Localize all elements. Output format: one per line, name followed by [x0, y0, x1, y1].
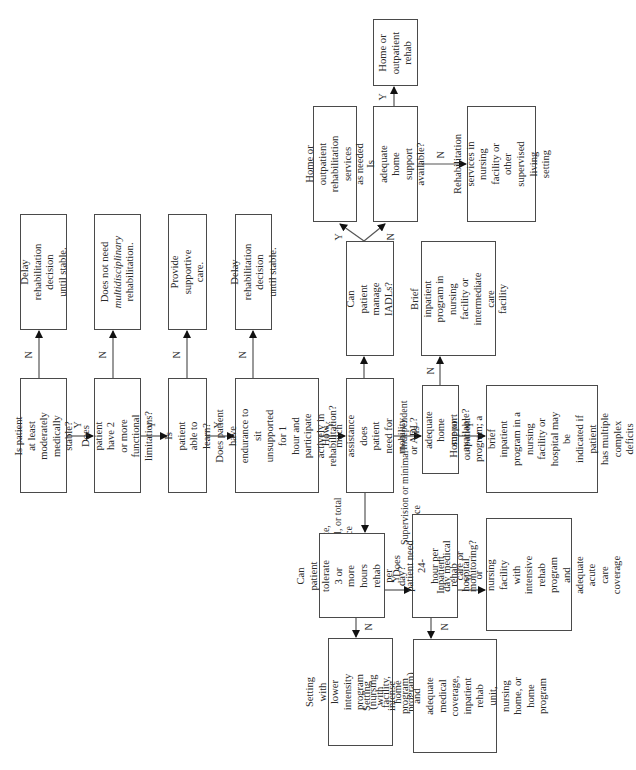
node-text: Home or outpatient rehab: [377, 31, 415, 73]
node-text: Is patient at least moderately medically…: [12, 412, 75, 460]
label-n: N: [98, 351, 108, 358]
label-n: N: [436, 151, 446, 158]
node-intense-program: Setting with intense program and adequat…: [413, 639, 497, 753]
node-delay-rehab-1: Delay rehabilitation decision until stab…: [20, 214, 67, 330]
node-medically-stable: Is patient at least moderately medically…: [20, 378, 67, 493]
text-emphasis: multidisciplinary: [111, 236, 122, 308]
node-not-multidisciplinary: Does not needmultidisciplinaryrehabilita…: [94, 214, 141, 330]
node-endurance: Does patient have endurance to sit unsup…: [235, 378, 319, 493]
label-y: Y: [378, 93, 388, 100]
node-manage-iadls: Can patient manage IADLs?: [346, 241, 394, 356]
node-supportive-care: Provide supportive care.: [168, 214, 207, 330]
label-n: N: [364, 623, 374, 630]
node-text: Delay rehabilitation decision until stab…: [18, 244, 68, 300]
node-text: Home or outpatient program; a brief inpa…: [448, 412, 636, 467]
node-text: Setting with intense program and adequat…: [361, 676, 550, 717]
node-brief-inpatient: Brief inpatient program in nursing facil…: [421, 241, 496, 356]
node-able-to-learn: Is patient able to learn?: [168, 378, 207, 493]
node-text: How much assistance does patient need fo…: [320, 414, 421, 456]
node-home-services-as-needed: Home or outpatient rehabilitation servic…: [313, 106, 357, 222]
node-home-outpatient-program: Home or outpatient program; a brief inpa…: [486, 385, 598, 493]
node-functional-limitations: Does patient have 2 or more functional l…: [94, 378, 141, 493]
label-n: N: [440, 623, 450, 630]
label-n: N: [386, 233, 396, 240]
node-tolerate-3-hours: Can patient tolerate 3 or more hours reh…: [319, 533, 385, 618]
node-inpatient-rehab-hospital: Inpatient rehab hospital or nursing faci…: [486, 518, 572, 631]
label-n: N: [24, 351, 34, 358]
node-text: Is patient able to learn?: [162, 421, 212, 450]
node-text: Can patient manage IADLs?: [345, 281, 395, 315]
node-text: Delay rehabilitation decision until stab…: [228, 244, 278, 300]
text-pre: Does not need: [99, 242, 110, 303]
node-text: Home or outpatient rehabilitation servic…: [304, 136, 367, 192]
node-rehab-nursing-facility: Rehabilitation services in nursing facil…: [467, 106, 536, 222]
node-text: Does not needmultidisciplinaryrehabilita…: [99, 236, 137, 308]
node-text: Provide supportive care.: [169, 250, 207, 295]
label-n: N: [426, 367, 436, 374]
node-text: Rehabilitation services in nursing facil…: [451, 134, 552, 194]
node-delay-rehab-2: Delay rehabilitation decision until stab…: [235, 214, 272, 330]
label-n: N: [172, 351, 182, 358]
node-home-outpatient-rehab: Home or outpatient rehab: [373, 19, 418, 86]
label-y: Y: [334, 233, 344, 240]
node-home-support-upper: Is adequate home support available?: [373, 106, 418, 222]
node-text: Brief inpatient program in nursing facil…: [408, 272, 509, 325]
node-text: Is adequate home support available?: [364, 143, 427, 186]
node-text: Does patient have 2 or more functional l…: [80, 410, 156, 460]
node-text: Inpatient rehab hospital or nursing faci…: [435, 554, 624, 596]
text-post: rehabilitation.: [124, 242, 135, 301]
label-n: N: [238, 351, 248, 358]
node-assistance-level: How much assistance does patient need fo…: [346, 378, 394, 493]
